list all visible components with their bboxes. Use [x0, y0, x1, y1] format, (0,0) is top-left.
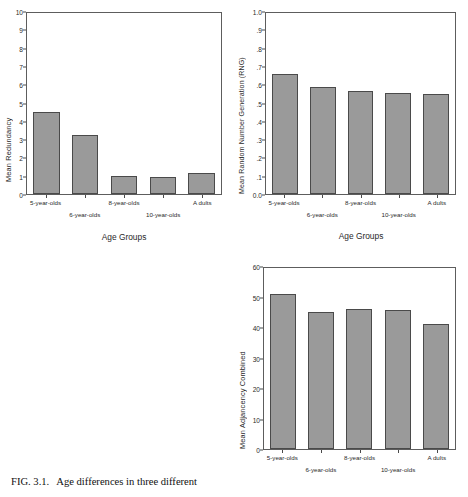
x-tick-label: A dults — [427, 454, 446, 461]
x-tick-mark — [398, 450, 399, 453]
bar — [385, 310, 411, 449]
x-tick-label: 6-year-olds — [69, 211, 100, 218]
bar — [72, 135, 98, 194]
chart-mean-rng: Mean Random Number Generation (RNG) 0.0.… — [234, 0, 468, 248]
x-tick-label: 5-year-olds — [267, 454, 298, 461]
bar — [188, 173, 214, 194]
x-tick-mark — [124, 195, 125, 198]
y-tick-label: .7 — [257, 63, 263, 70]
x-tick-label: 5-year-olds — [30, 199, 61, 206]
y-tick-label: 1 — [19, 173, 23, 180]
x-tick-label: 8-year-olds — [345, 199, 376, 206]
y-tick-label: 6 — [19, 82, 23, 89]
y-tick-label: 0.0 — [253, 192, 262, 199]
plot-area — [26, 12, 222, 195]
y-tick-label: .2 — [257, 155, 263, 162]
bar — [150, 177, 176, 194]
y-tick-label: 2 — [19, 155, 23, 162]
x-tick-label: 8-year-olds — [344, 454, 375, 461]
y-tick-label: 50 — [253, 294, 260, 301]
x-tick-label: 6-year-olds — [305, 466, 336, 473]
y-tick-label: .8 — [257, 45, 263, 52]
figure-number: FIG. 3.1. — [11, 476, 49, 487]
bar — [423, 324, 449, 449]
y-tick-label: .6 — [257, 82, 263, 89]
x-tick-mark — [437, 195, 438, 198]
bar-series — [264, 268, 455, 449]
y-tick-label: .3 — [257, 137, 263, 144]
y-tick-label: .5 — [257, 100, 263, 107]
bar — [423, 94, 449, 194]
chart-mean-adjancency: Mean Adjancency Combined 0102030405060 5… — [234, 255, 468, 497]
bar — [33, 112, 59, 194]
y-tick-label: 10 — [16, 9, 23, 16]
chart-mean-redundancy: Mean Redundancy 012345678910 5-year-olds… — [0, 0, 234, 248]
x-axis-title: Age Groups — [339, 231, 384, 241]
bar-series — [27, 13, 221, 194]
y-axis-ticks: 012345678910 — [0, 12, 23, 195]
bar — [270, 294, 296, 449]
x-axis-labels: 5-year-olds6-year-olds8-year-olds10-year… — [26, 195, 222, 231]
y-tick-label: .1 — [257, 173, 263, 180]
bar — [308, 312, 334, 449]
y-axis-ticks: 0.0.1.2.3.4.5.6.7.8.91.0 — [234, 12, 262, 195]
x-tick-mark — [282, 450, 283, 453]
plot-area — [265, 12, 456, 195]
y-tick-label: .4 — [257, 118, 263, 125]
x-tick-label: A dults — [428, 199, 447, 206]
x-tick-mark — [361, 195, 362, 198]
y-tick-label: .9 — [257, 27, 263, 34]
bar — [385, 93, 411, 194]
x-tick-mark — [321, 450, 322, 453]
x-tick-label: A dults — [193, 199, 212, 206]
x-tick-label: 10-year-olds — [146, 211, 180, 218]
x-tick-mark — [202, 195, 203, 198]
y-tick-label: 0 — [256, 447, 260, 454]
x-axis-labels: 5-year-olds6-year-olds8-year-olds10-year… — [263, 450, 456, 486]
x-tick-mark — [360, 450, 361, 453]
figure-caption: FIG. 3.1.Age differences in three differ… — [11, 476, 197, 487]
figure-caption-text: Age differences in three different — [56, 476, 197, 487]
x-tick-label: 10-year-olds — [381, 466, 415, 473]
x-tick-mark — [399, 195, 400, 198]
y-tick-label: 3 — [19, 137, 23, 144]
y-tick-label: 9 — [19, 27, 23, 34]
y-tick-label: 10 — [253, 416, 260, 423]
x-tick-mark — [437, 450, 438, 453]
y-axis-ticks: 0102030405060 — [234, 267, 260, 450]
x-tick-mark — [163, 195, 164, 198]
x-tick-mark — [85, 195, 86, 198]
y-tick-label: 0 — [19, 192, 23, 199]
x-tick-mark — [322, 195, 323, 198]
bar — [272, 74, 298, 194]
bar — [310, 87, 336, 194]
x-axis-title: Age Groups — [102, 232, 147, 242]
y-tick-label: 30 — [253, 355, 260, 362]
x-tick-mark — [46, 195, 47, 198]
x-axis-labels: 5-year-olds6-year-olds8-year-olds10-year… — [265, 195, 456, 231]
y-tick-label: 20 — [253, 386, 260, 393]
y-tick-label: 8 — [19, 45, 23, 52]
bar — [111, 176, 137, 194]
x-tick-label: 6-year-olds — [307, 211, 338, 218]
x-tick-label: 8-year-olds — [109, 199, 140, 206]
bar — [348, 91, 374, 194]
y-tick-label: 5 — [19, 100, 23, 107]
y-tick-label: 4 — [19, 118, 23, 125]
bar-series — [266, 13, 455, 194]
plot-area — [263, 267, 456, 450]
bar — [346, 309, 372, 449]
y-tick-label: 7 — [19, 63, 23, 70]
x-tick-label: 10-year-olds — [381, 211, 415, 218]
y-tick-label: 1.0 — [253, 9, 262, 16]
y-tick-label: 60 — [253, 264, 260, 271]
x-tick-label: 5-year-olds — [269, 199, 300, 206]
y-tick-label: 40 — [253, 325, 260, 332]
x-tick-mark — [284, 195, 285, 198]
